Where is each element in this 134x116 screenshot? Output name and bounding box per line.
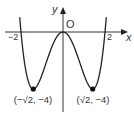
minimum-point-left [31,86,36,91]
y-axis-label: y [51,3,59,15]
x-axis-label: x [125,31,132,43]
tick-label-pos2: 2 [107,32,112,42]
origin-label: O [66,18,75,30]
minimum-point-right [90,86,95,91]
tick-label-neg2: −2 [8,32,18,42]
function-graph: y O x −2 2 (−√2, −4) (√2, −4) [0,0,134,116]
minimum-label-right: (√2, −4) [77,94,110,105]
minimum-label-left: (−√2, −4) [14,94,52,105]
y-axis-arrow-icon [60,7,66,14]
